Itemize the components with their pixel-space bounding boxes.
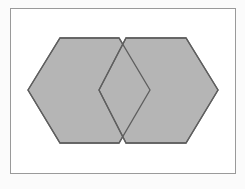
hexagons-diagram	[0, 0, 245, 189]
figure-canvas	[0, 0, 245, 189]
